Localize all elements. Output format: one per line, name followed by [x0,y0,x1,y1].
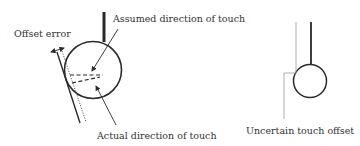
actual-direction-label: Actual direction of touch [96,130,217,141]
assumed-direction-label: Assumed direction of touch [112,13,245,24]
uncertain-offset-label: Uncertain touch offset [246,125,354,136]
actual-direction-pointer [96,86,116,125]
touch-offset-diagram: Offset error Assumed direction of touch … [0,0,360,146]
tilted-surface-line [57,52,80,123]
fingertip-circle-right [294,65,327,98]
dotted-reference-line [62,51,86,122]
offset-error-label: Offset error [14,28,71,39]
left-diagram: Offset error Assumed direction of touch … [14,12,245,141]
right-diagram: Uncertain touch offset [246,22,354,136]
uncertain-offset-line [284,22,296,119]
actual-direction-dashed [72,77,100,83]
